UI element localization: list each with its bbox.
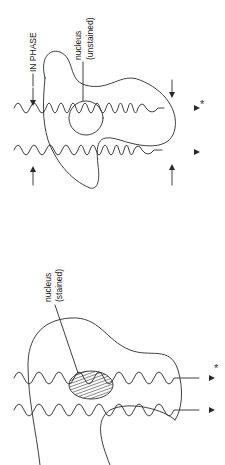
wave-bottom xyxy=(14,145,162,155)
diagram-canvas: IN PHASE nucleus (unstained) * nucleus (… xyxy=(0,0,225,465)
wave-top xyxy=(14,103,164,113)
nucleus-stained-leader xyxy=(55,305,78,373)
nucleus-unstained xyxy=(69,101,103,135)
panel-unstained: IN PHASE nucleus (unstained) * xyxy=(14,17,205,188)
in-phase-label: IN PHASE xyxy=(28,32,38,72)
arrow-out-bottom-head xyxy=(169,164,175,170)
nucleus-stained-label-2: (stained) xyxy=(54,269,64,302)
wave-stained-bottom xyxy=(14,404,199,416)
nucleus-unstained-label-2: (unstained) xyxy=(85,17,95,60)
arrow-in-bottom-head xyxy=(30,166,36,172)
arrowhead-out-bottom xyxy=(194,149,200,155)
arrowhead-stained-top xyxy=(209,375,215,381)
nucleus-stained-label-1: nucleus xyxy=(43,273,53,302)
cell-outline xyxy=(43,51,175,188)
arrow-out-top-head xyxy=(169,92,175,98)
star-marker-top: * xyxy=(200,98,205,110)
star-marker-bottom: * xyxy=(214,362,219,374)
panel-stained: nucleus (stained) * xyxy=(14,269,219,465)
arrowhead-stained-bottom xyxy=(209,407,215,413)
nucleus-unstained-label-1: nucleus xyxy=(73,31,83,60)
